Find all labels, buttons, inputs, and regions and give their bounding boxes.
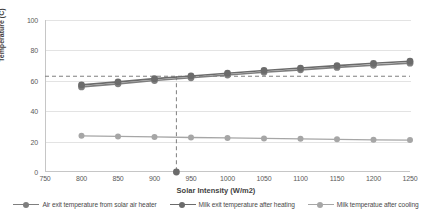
data-point-marker — [334, 62, 341, 69]
data-point-marker — [334, 136, 340, 142]
legend-label: Air exit temperature from solar air heat… — [42, 201, 156, 208]
temperature-vs-solar-intensity-chart: Temperature (C) 100 80 60 40 20 0 750 80… — [0, 0, 432, 220]
data-point-marker — [79, 133, 85, 139]
data-point-marker — [261, 135, 267, 141]
legend-label: Milk temperatue after cooling — [337, 201, 419, 208]
data-point-marker — [151, 75, 158, 82]
series-line — [82, 63, 411, 87]
legend-item-milk-exit-temperature[interactable]: Milk exit temperature after heating — [170, 200, 295, 208]
legend-item-milk-cooling-temperature[interactable]: Milk temperatue after cooling — [308, 200, 419, 208]
data-point-marker — [261, 67, 268, 74]
legend-label: Milk exit temperature after heating — [199, 201, 295, 208]
legend-marker-icon — [308, 200, 334, 208]
legend-item-air-exit-temperature[interactable]: Air exit temperature from solar air heat… — [13, 200, 156, 208]
data-point-marker — [152, 134, 158, 140]
legend-marker-icon — [13, 200, 39, 208]
data-point-marker — [225, 135, 231, 141]
data-point-marker — [115, 78, 122, 85]
data-point-marker — [407, 58, 414, 65]
data-point-marker — [78, 82, 85, 89]
x-axis-title: Solar Intensity (W/m2) — [0, 186, 432, 195]
data-point-marker — [188, 135, 194, 141]
series-line — [82, 136, 411, 140]
data-point-marker — [407, 137, 413, 143]
data-point-marker — [370, 60, 377, 67]
critical-solar-intensity-marker — [173, 169, 180, 176]
data-point-marker — [224, 70, 231, 77]
data-point-marker — [297, 65, 304, 72]
legend-marker-icon — [170, 200, 196, 208]
data-point-marker — [188, 73, 195, 80]
chart-legend: Air exit temperature from solar air heat… — [0, 200, 432, 208]
data-point-marker — [371, 137, 377, 143]
data-point-marker — [298, 136, 304, 142]
data-point-marker — [115, 133, 121, 139]
